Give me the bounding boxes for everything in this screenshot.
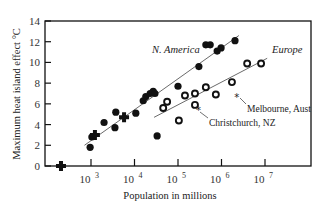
asterisk-marker: * [234,92,239,103]
y-tick-label: 2 [35,139,41,151]
y-tick-label: 8 [35,77,41,89]
y-axis-title: Maximum heat island effect °C [11,28,22,160]
annotation-christchurch: Christchurch, NZ [209,118,276,128]
x-tick-exponent: 7 [269,171,273,180]
christchurch-leader-line [200,112,208,118]
filled-circle-marker [207,41,214,48]
cross-marker [56,161,66,171]
open-circle-marker [213,92,219,98]
filled-circle-marker [100,119,107,126]
filled-circle-marker [111,124,118,131]
open-circle-marker [164,99,170,105]
melbourne-leader-line [240,98,246,104]
series-label-europe: Europe [271,44,303,55]
open-circle-marker [258,60,264,66]
filled-circle-marker [217,44,224,51]
filled-circle-marker [112,109,119,116]
y-tick-label: 14 [29,15,41,27]
filled-circle-marker [231,37,238,44]
y-tick-label: 12 [29,36,40,48]
asterisk-marker: * [196,105,201,116]
y-tick-label: 0 [35,160,41,172]
y-tick-label: 10 [29,56,41,68]
x-tick-exponent: 3 [95,171,99,180]
open-circle-marker [192,91,198,97]
x-tick-label: 10 [167,173,179,185]
y-axis: 02468101214 [29,15,51,172]
x-tick-exponent: 6 [226,171,230,180]
x-tick-label: 10 [254,173,266,185]
filled-circle-marker [151,90,158,97]
open-circle-marker [203,84,209,90]
x-tick-label: 10 [210,173,222,185]
cross-marker [119,112,129,122]
plot-frame [45,21,311,166]
open-circle-marker [176,117,182,123]
heat-island-scatter-chart: 02468101214 103104105106107 ** N. Americ… [0,0,326,213]
filled-circle-marker [87,144,94,151]
filled-circle-marker [132,110,139,117]
data-points: ** [56,37,264,171]
x-tick-label: 10 [80,173,92,185]
x-tick-label: 10 [123,173,135,185]
series-label-north-america: N. America [151,44,200,55]
open-circle-marker [160,105,166,111]
open-circle-marker [229,79,235,85]
x-axis: 103104105106107 [80,159,274,185]
open-circle-marker [182,93,188,99]
open-circle-marker [244,60,250,66]
y-tick-label: 6 [35,98,41,110]
filled-circle-marker [154,132,161,139]
y-tick-label: 4 [35,119,41,131]
filled-circle-marker [174,83,181,90]
x-axis-title: Population in millions [123,190,216,201]
filled-circle-marker [195,63,202,70]
x-tick-exponent: 4 [139,171,143,180]
plot-border [45,21,311,166]
x-tick-exponent: 5 [182,171,186,180]
annotation-melbourne: Melbourne, Aust [247,104,311,114]
